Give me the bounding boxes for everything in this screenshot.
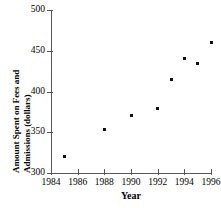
- data-point: [196, 62, 199, 65]
- data-point: [63, 155, 66, 158]
- data-point: [170, 78, 173, 81]
- data-point: [130, 114, 133, 117]
- x-axis-title: Year: [51, 190, 211, 201]
- plot-area: [0, 0, 221, 208]
- data-point: [210, 41, 213, 44]
- data-point: [183, 57, 186, 60]
- data-point: [103, 128, 106, 131]
- scatter-chart: Amount Spent on Fees and Admissions (dol…: [0, 0, 221, 208]
- data-point: [156, 107, 159, 110]
